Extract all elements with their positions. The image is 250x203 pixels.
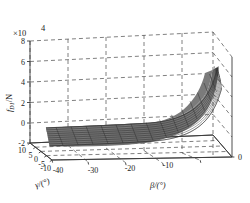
z-axis — [27, 41, 30, 143]
figure-container: 8 6 4 2 0 -2 10 5 0 -5 -10 -40 -30 -20 -… — [0, 0, 250, 203]
gamma-tick-labels: 10 5 0 -5 -10 — [18, 146, 51, 173]
z-tick-2: 2 — [21, 99, 25, 108]
gamma-tick-neg10: -10 — [40, 164, 51, 173]
surface-plot-canvas: 8 6 4 2 0 -2 10 5 0 -5 -10 -40 -30 -20 -… — [0, 0, 250, 203]
beta-tick-neg10: -10 — [163, 161, 174, 170]
z-tick-4: 4 — [21, 78, 25, 87]
surface-mesh — [41, 66, 222, 147]
gamma-tick-5: 5 — [29, 151, 33, 160]
z-tick-0: 0 — [21, 119, 25, 128]
z-axis-title: fD1/N — [4, 94, 15, 112]
z-tick-8: 8 — [21, 37, 25, 46]
beta-axis — [52, 157, 234, 166]
multiplier-base: ×10 — [13, 28, 26, 38]
z-axis-title-text: fD1/N — [4, 94, 15, 112]
z-title-sub: D1 — [9, 102, 15, 110]
z-tick-labels: 8 6 4 2 0 -2 — [18, 37, 25, 148]
beta-axis-title: β/(°) — [149, 180, 166, 190]
beta-tick-neg30: -30 — [88, 166, 99, 175]
gamma-tick-10: 10 — [18, 146, 26, 155]
z-title-unit: /N — [4, 94, 14, 103]
beta-tick-neg20: -20 — [125, 164, 136, 173]
multiplier-exponent: 4 — [41, 23, 46, 33]
z-axis-multiplier: ×10 4 — [13, 23, 46, 38]
beta-tick-neg40: -40 — [53, 166, 64, 175]
beta-tick-0: 0 — [238, 153, 242, 162]
gamma-axis-title: γ/(°) — [34, 176, 51, 190]
z-tick-6: 6 — [21, 58, 25, 67]
